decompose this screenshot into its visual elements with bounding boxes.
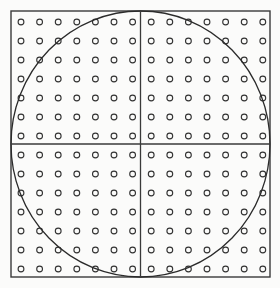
figure-root <box>0 0 280 288</box>
figure-canvas <box>0 0 280 288</box>
